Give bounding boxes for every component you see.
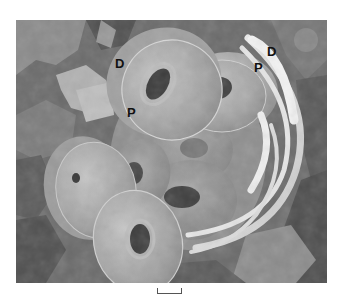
label-p-left: P <box>127 106 136 119</box>
coccosphere-illustration <box>16 20 327 283</box>
scale-bar <box>157 288 182 294</box>
sem-micrograph <box>16 20 327 283</box>
label-d-left: D <box>115 57 124 70</box>
label-d-right: D <box>267 45 276 58</box>
label-p-right: P <box>254 61 263 74</box>
